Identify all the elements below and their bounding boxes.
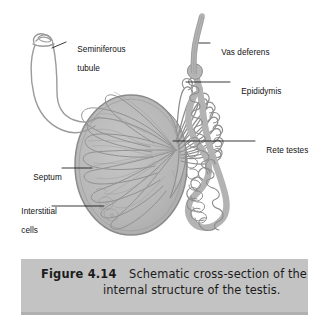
label-septum-text: Septum bbox=[33, 173, 62, 182]
label-seminiferous-tubule-line2: tubule bbox=[77, 64, 100, 73]
label-epididymis-text: Epididymis bbox=[241, 87, 281, 96]
caption-line-2: internal structure of the testis. bbox=[41, 283, 291, 299]
leader-seminiferous-tubule bbox=[52, 42, 66, 48]
caption-line-1-body: Schematic cross-section of the bbox=[129, 267, 307, 281]
label-septum: Septum bbox=[24, 163, 62, 192]
figure-container: Seminiferous tubule Vas deferens Epididy… bbox=[0, 0, 321, 333]
label-seminiferous-tubule: Seminiferous tubule bbox=[68, 35, 126, 83]
label-epididymis: Epididymis bbox=[232, 77, 281, 106]
label-interstitial-cells: Interstitial cells bbox=[12, 197, 57, 245]
figure-caption-text: Figure 4.14 Schematic cross-section of t… bbox=[41, 267, 291, 298]
label-interstitial-cells-line1: Interstitial bbox=[21, 207, 57, 216]
label-vas-deferens-text: Vas deferens bbox=[221, 48, 269, 57]
label-rete-testes: Rete testes bbox=[257, 136, 308, 165]
caption-line-1: Figure 4.14 Schematic cross-section of t… bbox=[41, 267, 291, 283]
label-seminiferous-tubule-line1: Seminiferous bbox=[77, 45, 125, 54]
label-vas-deferens: Vas deferens bbox=[212, 38, 270, 67]
caption-figure-number: Figure 4.14 bbox=[41, 267, 129, 281]
figure-caption-bar: Figure 4.14 Schematic cross-section of t… bbox=[21, 259, 308, 315]
label-interstitial-cells-line2: cells bbox=[21, 226, 38, 235]
label-rete-testes-text: Rete testes bbox=[266, 146, 308, 155]
